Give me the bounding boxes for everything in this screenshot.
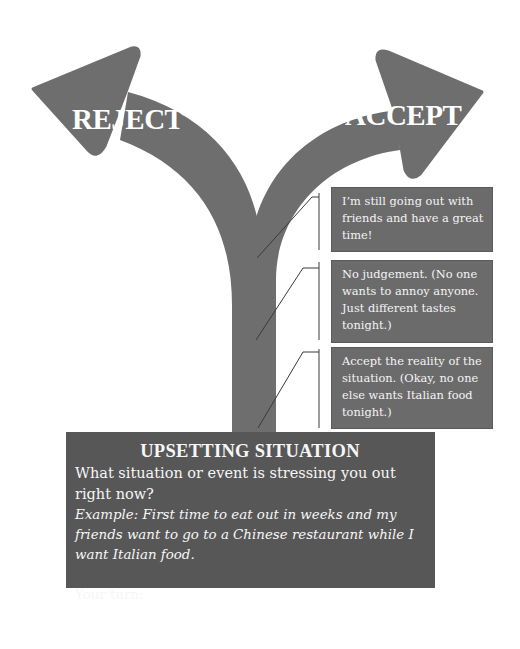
step-text: Accept the reality of the situation. (Ok… [342,354,482,419]
situation-example: Example: First time to eat out in weeks … [75,505,425,565]
situation-question: What situation or event is stressing you… [75,463,425,505]
accept-step-2: No judgement. (No one wants to annoy any… [331,260,493,343]
upsetting-situation-box: UPSETTING SITUATION What situation or ev… [66,432,435,588]
accept-label: ACCEPT [345,99,461,132]
your-turn-prompt[interactable]: Your turn: [75,585,425,605]
arrow-stem [232,300,276,440]
reject-label: REJECT [72,103,183,136]
situation-title: UPSETTING SITUATION [75,440,425,462]
step-text: I’m still going out with friends and hav… [342,194,483,242]
accept-step-1: I’m still going out with friends and hav… [331,187,493,252]
step-text: No judgement. (No one wants to annoy any… [342,267,478,332]
accept-step-3: Accept the reality of the situation. (Ok… [331,347,493,429]
